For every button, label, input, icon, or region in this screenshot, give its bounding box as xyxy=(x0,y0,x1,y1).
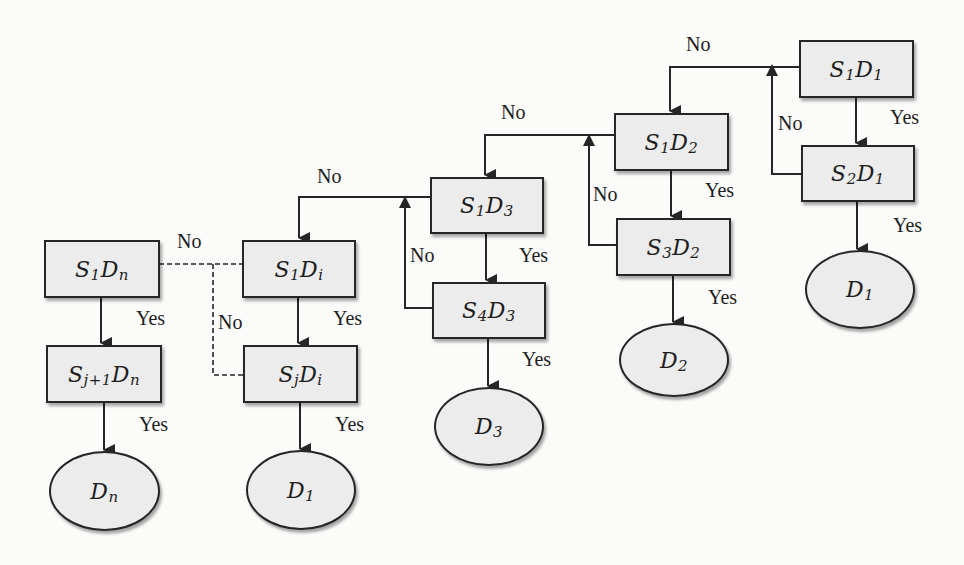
label-no-s1d3: No xyxy=(317,165,341,188)
edge-s1d2-no xyxy=(485,135,614,175)
decision-node-sj-di: SjDi xyxy=(243,345,358,403)
label-yes-s1d1: Yes xyxy=(890,106,919,129)
decision-node-s3-d2: S3D2 xyxy=(616,218,731,276)
decision-node-s1-dn: S1Dn xyxy=(44,240,160,298)
label-no-sjdi: No xyxy=(218,311,242,334)
label-yes-sj1dn: Yes xyxy=(139,413,168,436)
decision-node-s2-d1: S2D1 xyxy=(801,145,915,202)
label-no-s1d1: No xyxy=(686,33,710,56)
edge-s1d3-no xyxy=(299,197,430,238)
decision-node-sj1-dn: Sj+1Dn xyxy=(46,345,162,403)
label-yes-s4d3: Yes xyxy=(522,348,551,371)
terminal-node-dn: Dn xyxy=(49,451,160,531)
edge-s1d1-no xyxy=(670,67,799,111)
label-yes-s1d3: Yes xyxy=(519,244,548,267)
label-yes-s1di: Yes xyxy=(333,307,362,330)
label-no-s2d1: No xyxy=(778,112,802,135)
label-yes-s1dn: Yes xyxy=(136,307,165,330)
decision-node-s4-d3: S4D3 xyxy=(432,282,546,339)
label-yes-s1d2: Yes xyxy=(705,179,734,202)
terminal-node-d2: D2 xyxy=(619,323,729,397)
terminal-node-d3: D3 xyxy=(434,387,544,466)
decision-node-s1-d2: S1D2 xyxy=(614,113,729,171)
terminal-node-d1-right: D1 xyxy=(805,250,915,329)
label-no-s1di: No xyxy=(177,230,201,253)
label-no-s1d2: No xyxy=(501,101,525,124)
label-yes-sjdi: Yes xyxy=(335,413,364,436)
decision-node-s1-di: S1Di xyxy=(242,240,356,298)
label-no-s4d3: No xyxy=(410,244,434,267)
label-yes-s2d1: Yes xyxy=(893,214,922,237)
label-yes-s3d2: Yes xyxy=(708,286,737,309)
decision-node-s1-d1: S1D1 xyxy=(799,40,914,98)
terminal-node-d1-left: D1 xyxy=(246,450,356,530)
diagram-canvas: S1Dn Sj+1Dn Dn S1Di SjDi D1 S1D3 S4D3 D3… xyxy=(0,0,964,565)
decision-node-s1-d3: S1D3 xyxy=(430,177,544,234)
label-no-s3d2: No xyxy=(593,183,617,206)
